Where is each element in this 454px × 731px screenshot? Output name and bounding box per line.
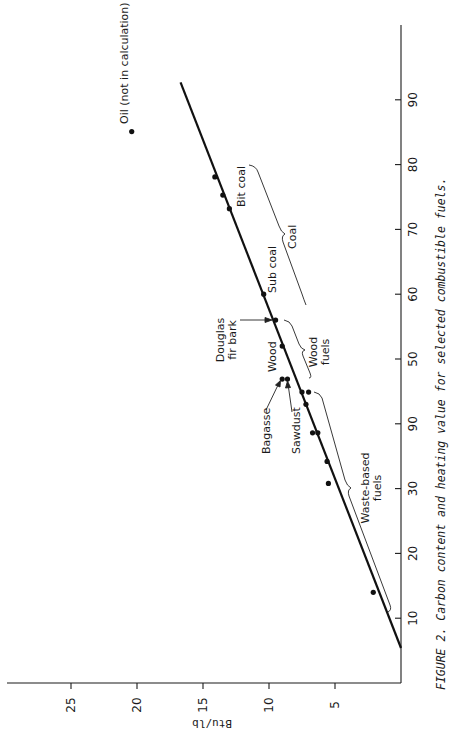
- wood-label: Wood: [266, 341, 279, 372]
- data-point: [310, 430, 315, 435]
- data-point: [315, 430, 320, 435]
- data-point: [326, 481, 331, 486]
- carbon-tick-label: 70: [406, 222, 420, 237]
- btu-tick-label: 15: [196, 697, 210, 712]
- data-point: [227, 206, 232, 211]
- fuel-carbon-chart: 102030905060708090 510152025 Btu/lb Oil …: [0, 0, 454, 731]
- carbon-tick-label: 20: [406, 546, 420, 561]
- douglas-arrowhead-icon: [265, 318, 272, 323]
- data-point: [303, 402, 308, 407]
- btu-axis-ticks: 510152025: [64, 683, 342, 713]
- carbon-tick-label: 60: [406, 287, 420, 302]
- btu-tick-label: 5: [328, 701, 342, 709]
- data-point: [273, 318, 278, 323]
- waste-label-line2: fuels: [371, 475, 384, 502]
- sawdust-arrowhead-icon: [286, 381, 291, 388]
- btu-axis-label: Btu/lb: [192, 717, 232, 730]
- bit-coal-label: Bit coal: [235, 166, 248, 207]
- oil-label: Oil (not in calculation): [118, 2, 131, 124]
- sawdust-label: Sawdust: [290, 407, 303, 454]
- btu-tick-label: 20: [130, 697, 144, 712]
- data-points: [129, 129, 376, 595]
- btu-tick-label: 10: [262, 697, 276, 712]
- carbon-tick-label: 30: [406, 481, 420, 496]
- data-point: [212, 174, 217, 179]
- carbon-tick-label: 10: [406, 611, 420, 626]
- carbon-tick-label: 50: [406, 351, 420, 366]
- data-point: [299, 389, 304, 394]
- carbon-axis-ticks: 102030905060708090: [395, 92, 420, 626]
- bagasse-arrowhead-icon: [276, 381, 281, 388]
- brackets: [249, 165, 391, 612]
- data-point: [220, 192, 225, 197]
- btu-tick-label: 25: [64, 697, 78, 712]
- carbon-tick-label: 90: [406, 92, 420, 107]
- data-point: [324, 459, 329, 464]
- data-point: [280, 343, 285, 348]
- axes: [7, 25, 401, 683]
- data-point: [129, 129, 134, 134]
- wood-fuels-label-line2: fuels: [319, 339, 332, 366]
- carbon-tick-label: 90: [406, 416, 420, 431]
- coal-label: Coal: [286, 225, 299, 249]
- bagasse-label: Bagasse: [260, 408, 273, 454]
- bagasse-arrow: [266, 383, 279, 410]
- figure-caption: FIGURE 2. Carbon content and heating val…: [434, 178, 448, 690]
- douglas-label-line2: fir bark: [226, 320, 239, 360]
- sub-coal-label: Sub coal: [266, 246, 279, 293]
- data-point: [306, 389, 311, 394]
- carbon-tick-label: 80: [406, 157, 420, 172]
- regression-line: [181, 82, 401, 648]
- data-point: [371, 590, 376, 595]
